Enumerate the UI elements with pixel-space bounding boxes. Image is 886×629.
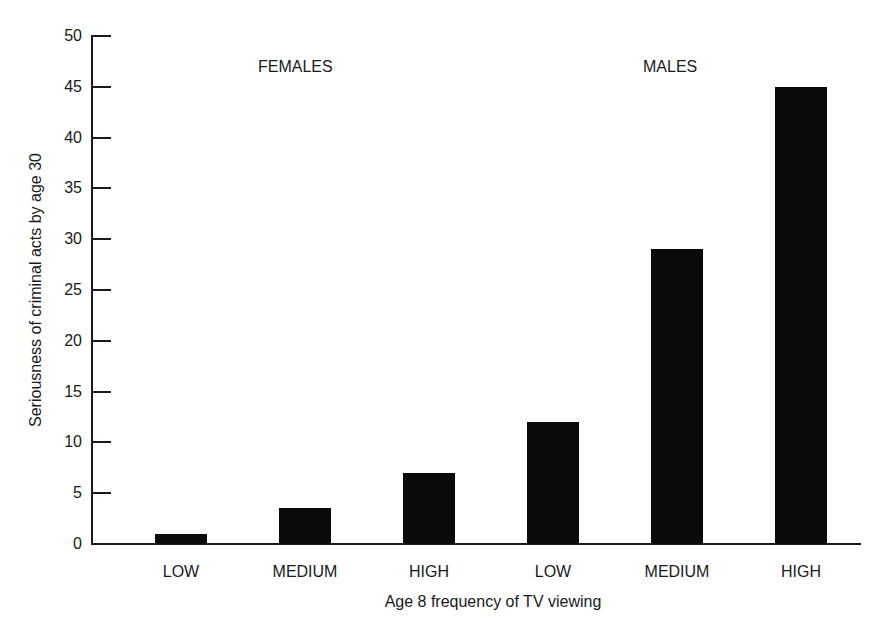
group-label-females: FEMALES xyxy=(258,58,333,76)
y-tick-mark xyxy=(92,340,111,342)
y-tick-mark xyxy=(92,441,111,443)
group-label-males: MALES xyxy=(643,58,697,76)
y-tick-label: 15 xyxy=(42,384,82,400)
y-tick-label: 30 xyxy=(42,231,82,247)
y-tick-label: 10 xyxy=(42,434,82,450)
bar-males-high xyxy=(775,87,827,544)
y-tick-label: 45 xyxy=(42,79,82,95)
y-tick-mark xyxy=(92,289,111,291)
category-label: MEDIUM xyxy=(245,563,365,581)
y-tick-mark xyxy=(92,492,111,494)
bar-females-low xyxy=(155,534,207,544)
bar-females-high xyxy=(403,473,455,544)
category-label: HIGH xyxy=(741,563,861,581)
category-label: LOW xyxy=(121,563,241,581)
y-tick-mark xyxy=(92,35,111,37)
y-tick-label: 35 xyxy=(42,180,82,196)
bar-males-low xyxy=(527,422,579,544)
bar-chart: Seriousness of criminal acts by age 30 0… xyxy=(0,0,886,629)
y-tick-mark xyxy=(92,543,111,545)
y-tick-label: 20 xyxy=(42,333,82,349)
category-label: MEDIUM xyxy=(617,563,737,581)
y-tick-label: 0 xyxy=(42,536,82,552)
y-tick-label: 5 xyxy=(42,485,82,501)
bar-females-medium xyxy=(279,508,331,544)
y-tick-label: 50 xyxy=(42,28,82,44)
y-tick-mark xyxy=(92,86,111,88)
y-tick-mark xyxy=(92,137,111,139)
y-tick-label: 25 xyxy=(42,282,82,298)
y-tick-label: 40 xyxy=(42,130,82,146)
y-tick-mark xyxy=(92,187,111,189)
bar-males-medium xyxy=(651,249,703,544)
y-tick-mark xyxy=(92,391,111,393)
category-label: HIGH xyxy=(369,563,489,581)
y-tick-mark xyxy=(92,238,111,240)
category-label: LOW xyxy=(493,563,613,581)
x-axis-label: Age 8 frequency of TV viewing xyxy=(0,593,886,611)
